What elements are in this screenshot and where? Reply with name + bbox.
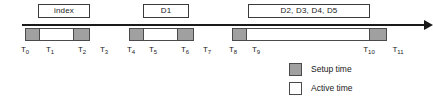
legend-active-time: Active time <box>289 82 353 95</box>
legend-label-active: Active time <box>311 82 353 95</box>
tick-label-t7: T7 <box>197 45 217 55</box>
tick-label-t11: T11 <box>388 45 408 55</box>
legend-label-setup: Setup time <box>311 63 352 76</box>
task-label-box-index: index <box>38 4 90 18</box>
timeline-diagram: index D1 D2, D3, D4, D5 T0T1T2T3T4T5T6T7… <box>0 0 433 102</box>
bar-segment-setup <box>369 29 386 40</box>
tick-label-t3: T3 <box>94 45 114 55</box>
bar-segment-setup <box>233 29 247 40</box>
bar-segment-active <box>40 29 74 40</box>
bar-segment-active <box>247 29 369 40</box>
bar-segment-setup <box>177 29 193 40</box>
tick-label-t8: T8 <box>223 45 243 55</box>
tick-label-t4: T4 <box>121 45 141 55</box>
tick-label-t2: T2 <box>72 45 92 55</box>
tick-label-t10: T10 <box>359 45 379 55</box>
legend-swatch-active <box>289 82 302 95</box>
bar-segment-active <box>144 29 178 40</box>
task-label-box-d2-d5: D2, D3, D4, D5 <box>248 4 370 18</box>
legend-swatch-setup <box>289 63 302 76</box>
tick-label-t6: T6 <box>175 45 195 55</box>
timeline-bar-d2-d5 <box>232 28 387 41</box>
timeline-bar-d1 <box>129 28 194 41</box>
task-label-box-d1: D1 <box>143 4 189 18</box>
legend-setup-time: Setup time <box>289 63 352 76</box>
bar-segment-setup <box>130 29 144 40</box>
bar-segment-setup <box>73 29 89 40</box>
tick-label-t1: T1 <box>40 45 60 55</box>
timeline-bar-index <box>25 28 90 41</box>
tick-label-t5: T5 <box>143 45 163 55</box>
bar-segment-setup <box>26 29 40 40</box>
time-axis-arrow-icon <box>424 20 433 30</box>
time-axis-line <box>22 24 424 26</box>
tick-label-t9: T9 <box>246 45 266 55</box>
tick-label-t0: T0 <box>15 45 35 55</box>
